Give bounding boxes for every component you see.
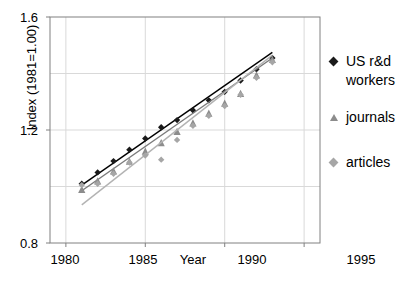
chart-figure: Index (1981=1.00) 1.6 1.2 0.8 1980 1985 … [0,0,419,283]
legend-item-articles[interactable]: articles [330,153,418,172]
legend-item-journals[interactable]: journals [330,108,418,127]
data-point-series-1 [126,147,132,153]
data-point-series-3 [206,113,212,119]
data-point-series-3 [190,123,196,129]
diamond-dark-icon [329,57,339,67]
data-point-series-1 [110,158,116,164]
data-point-series-1 [158,124,164,130]
x-axis-title: Year [168,252,218,267]
y-tick-label-1.2: 1.2 [0,123,38,138]
x-tick-label-1990: 1990 [222,252,282,267]
data-point-series-1 [142,135,148,141]
chart-legend: US r&d workers journals articles [330,52,418,190]
x-tick-label-1980: 1980 [35,252,95,267]
data-point-series-3 [126,159,132,165]
data-point-series-1 [94,169,100,175]
legend-label-line1: US r&d [346,52,418,71]
diamond-gray-icon [329,158,339,168]
data-point-series-3 [253,75,259,81]
data-point-series-3 [222,103,228,109]
y-tick-label-1.6: 1.6 [0,10,38,25]
legend-item-us-rd-workers[interactable]: US r&d workers [330,52,418,90]
triangle-gray-icon [330,114,338,121]
x-tick-label-1995: 1995 [331,252,391,267]
y-tick-label-0.8: 0.8 [0,236,38,251]
legend-label-line1: journals [346,108,418,127]
data-point-series-3 [158,156,164,162]
data-point-series-3 [110,171,116,177]
x-tick-label-1985: 1985 [113,252,173,267]
legend-label-line2: workers [346,71,418,90]
data-point-series-3 [237,91,243,97]
legend-label-line1: articles [346,153,418,172]
data-point-series-3 [174,137,180,143]
